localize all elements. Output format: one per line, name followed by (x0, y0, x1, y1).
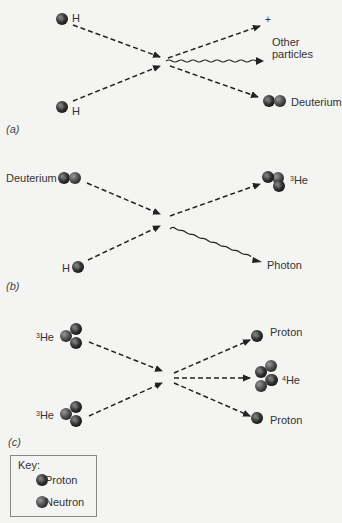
proton-icon (70, 337, 82, 349)
key-neutron-label: Neutron (45, 496, 84, 508)
neutron-icon (255, 380, 267, 392)
photon-label: Photon (267, 259, 302, 271)
panel-a (56, 13, 286, 113)
he3-input-label-top: 3He (36, 331, 54, 343)
h-label-top: H (72, 12, 80, 24)
dashed-arrow (170, 184, 260, 216)
he3-output-label: 3He (290, 174, 308, 186)
panel-label-b: (b) (6, 280, 19, 292)
dashed-arrow (73, 25, 160, 57)
key-title: Key: (18, 459, 40, 471)
proton-icon (251, 412, 263, 424)
wavy-arrow (170, 227, 251, 256)
dashed-arrow (87, 183, 160, 214)
legend-key: Key: Proton Neutron (10, 455, 97, 517)
proton-icon (58, 172, 70, 184)
dashed-arrow (174, 340, 250, 373)
arrowhead-icon (252, 257, 262, 263)
wavy-arrow (166, 60, 256, 62)
dashed-arrow (88, 226, 160, 260)
dashed-arrow (89, 383, 162, 416)
proton-icon (273, 180, 285, 192)
panel-c (60, 323, 278, 427)
other-label-line2: particles (272, 48, 313, 60)
proton-icon (70, 323, 82, 335)
h-input-label: H (62, 262, 70, 274)
other-label-line1: Other (272, 36, 300, 48)
dashed-arrow (89, 342, 162, 371)
neutron-icon (69, 172, 81, 184)
proton-icon (263, 95, 275, 107)
proton-icon (251, 330, 263, 342)
he3-input-label-bottom: 3He (36, 409, 54, 421)
h-label-bottom: H (72, 105, 80, 117)
proton-icon (255, 366, 267, 378)
panel-label-a: (a) (6, 123, 19, 135)
panel-b (58, 171, 285, 273)
proton-icon (56, 13, 68, 25)
arrowhead-icon (256, 57, 264, 65)
dashed-arrow (170, 66, 258, 97)
dashed-arrow (168, 26, 260, 58)
proton-icon (262, 171, 274, 183)
dashed-arrow (174, 383, 250, 416)
key-proton-label: Proton (45, 474, 77, 486)
neutron-icon (60, 408, 72, 420)
dashed-arrow (73, 66, 160, 101)
neutron-icon (274, 95, 286, 107)
proton-output-label-top: Proton (270, 326, 302, 338)
neutron-icon (265, 360, 277, 372)
deuterium-label: Deuterium (291, 96, 342, 108)
panel-label-c: (c) (8, 436, 21, 448)
proton-icon (70, 401, 82, 413)
proton-icon (266, 374, 278, 386)
proton-icon (56, 101, 68, 113)
deuterium-input-label: Deuterium (6, 172, 57, 184)
neutron-icon (60, 330, 72, 342)
he4-output-label: 4He (282, 374, 300, 386)
plus-label: + (265, 14, 271, 26)
proton-icon (70, 415, 82, 427)
proton-output-label-bottom: Proton (270, 414, 302, 426)
proton-icon (72, 261, 84, 273)
